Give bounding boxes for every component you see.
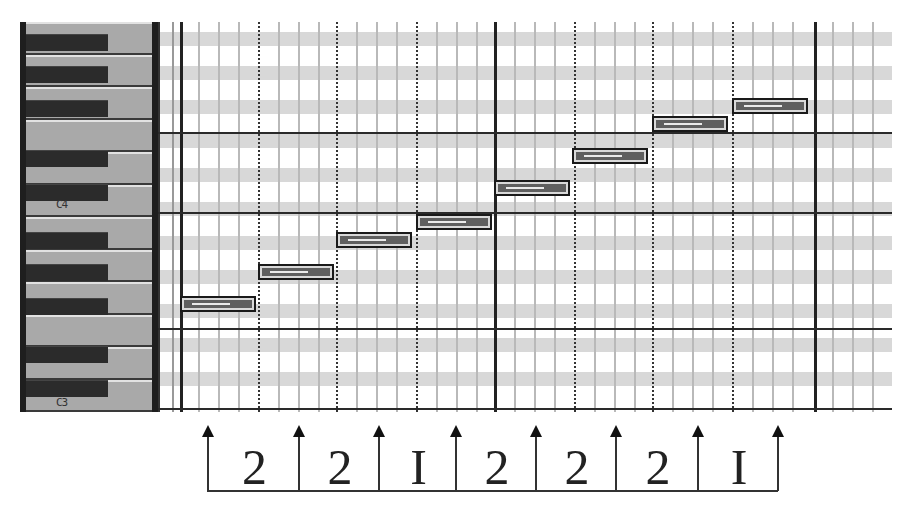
- row-stripe: [158, 134, 180, 148]
- interval-step: 2: [467, 442, 527, 492]
- column-line: [172, 22, 174, 412]
- interval-step: I: [389, 442, 449, 492]
- note-d3[interactable]: [258, 264, 334, 280]
- black-key: [26, 100, 108, 117]
- row-stripe: [158, 66, 180, 80]
- arrow-shaft: [455, 436, 457, 491]
- note-a3[interactable]: [572, 148, 648, 164]
- grid-line: [238, 22, 240, 412]
- arrow-shaft: [697, 436, 699, 491]
- row-stripe: [180, 66, 892, 80]
- grid-line: [832, 22, 834, 412]
- octave-line: [158, 212, 180, 214]
- arrow-up-icon: [772, 425, 784, 437]
- beat-line: [732, 22, 734, 412]
- grid-line: [356, 22, 358, 412]
- row-stripe: [158, 168, 180, 182]
- arrow-up-icon: [202, 425, 214, 437]
- bar-line: [494, 22, 497, 412]
- grid-line: [376, 22, 378, 412]
- octave-line: [180, 212, 892, 214]
- bar-line: [180, 22, 183, 412]
- grid-line: [634, 22, 636, 412]
- black-key: [26, 264, 108, 281]
- octave-line: [158, 132, 180, 134]
- bar-line: [814, 22, 817, 412]
- grid-line: [218, 22, 220, 412]
- piano-keyboard: C4C3: [20, 22, 158, 412]
- arrow-shaft: [298, 436, 300, 491]
- note-highlight: [270, 271, 308, 273]
- note-g3[interactable]: [494, 180, 570, 196]
- row-stripe: [180, 372, 892, 386]
- grid-line: [752, 22, 754, 412]
- interval-step: 2: [225, 442, 285, 492]
- velocity-column: [158, 22, 180, 412]
- grid-line: [198, 22, 200, 412]
- row-stripe: [158, 100, 180, 114]
- octave-line: [180, 408, 892, 410]
- grid-line: [692, 22, 694, 412]
- note-highlight: [192, 303, 230, 305]
- octave-line: [158, 328, 180, 330]
- interval-step: I: [709, 442, 769, 492]
- grid-line: [534, 22, 536, 412]
- beat-line: [258, 22, 260, 412]
- arrow-up-icon: [692, 425, 704, 437]
- grid-line: [712, 22, 714, 412]
- note-highlight: [664, 123, 702, 125]
- note-highlight: [348, 239, 386, 241]
- column-line: [158, 22, 160, 412]
- octave-line: [158, 408, 180, 410]
- grid-line: [792, 22, 794, 412]
- row-stripe: [158, 236, 180, 250]
- arrow-up-icon: [373, 425, 385, 437]
- grid-line: [318, 22, 320, 412]
- arrow-shaft: [378, 436, 380, 491]
- row-stripe: [180, 32, 892, 46]
- black-key: [26, 66, 108, 83]
- row-stripe: [180, 338, 892, 352]
- row-stripe: [180, 236, 892, 250]
- piano-roll-diagram: C4C3 22I222I: [0, 0, 904, 509]
- interval-step: 2: [547, 442, 607, 492]
- row-stripe: [180, 134, 892, 148]
- grid-line: [672, 22, 674, 412]
- beat-line: [574, 22, 576, 412]
- octave-line: [180, 132, 892, 134]
- note-highlight: [584, 155, 622, 157]
- arrow-up-icon: [293, 425, 305, 437]
- black-key: [26, 380, 108, 397]
- arrow-shaft: [207, 436, 209, 491]
- grid-line: [852, 22, 854, 412]
- note-c3[interactable]: [180, 296, 256, 312]
- note-e3[interactable]: [336, 232, 412, 248]
- note-grid: [180, 22, 892, 412]
- key-label-c4: C4: [56, 198, 67, 211]
- note-c4[interactable]: [732, 98, 808, 114]
- arrow-shaft: [615, 436, 617, 491]
- note-highlight: [744, 105, 782, 107]
- beat-line: [652, 22, 654, 412]
- interval-step: 2: [628, 442, 688, 492]
- grid-line: [554, 22, 556, 412]
- grid-line: [278, 22, 280, 412]
- grid-line: [614, 22, 616, 412]
- arrow-shaft: [535, 436, 537, 491]
- row-stripe: [180, 304, 892, 318]
- grid-line: [872, 22, 874, 412]
- arrow-shaft: [777, 436, 779, 491]
- key-label-c3: C3: [56, 396, 67, 409]
- grid-line: [772, 22, 774, 412]
- grid-line: [396, 22, 398, 412]
- black-key: [26, 346, 108, 363]
- row-stripe: [158, 32, 180, 46]
- black-key: [26, 232, 108, 249]
- note-highlight: [428, 221, 466, 223]
- note-f3[interactable]: [416, 214, 492, 230]
- black-key: [26, 34, 108, 51]
- note-b3[interactable]: [652, 116, 728, 132]
- white-key: [26, 315, 152, 348]
- white-key: [26, 120, 152, 153]
- black-key: [26, 298, 108, 315]
